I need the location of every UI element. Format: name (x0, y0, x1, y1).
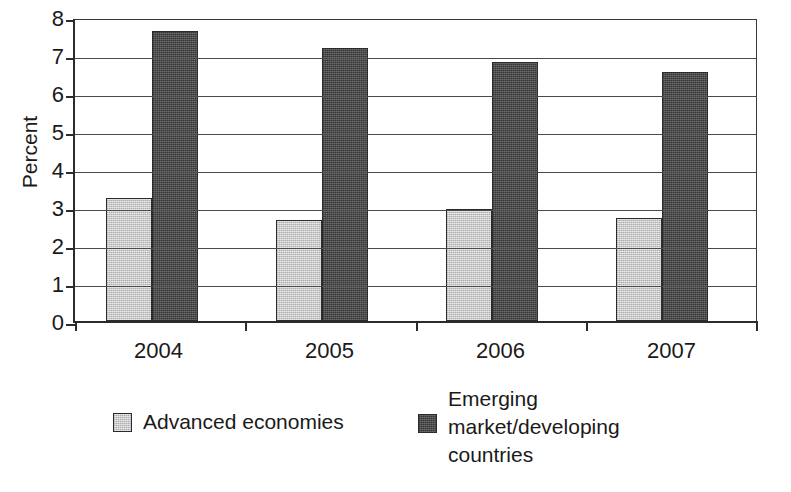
legend-label: Advanced economies (143, 408, 344, 436)
y-tickmark-6 (66, 96, 75, 98)
y-tick-label-0: 0 (36, 312, 64, 334)
x-tick-label-2006: 2006 (415, 336, 586, 370)
y-tick-label-7: 7 (36, 46, 64, 68)
plot-area (73, 19, 757, 323)
y-tickmark-4 (66, 172, 75, 174)
y-tickmark-0 (66, 324, 75, 326)
bar-group-2004 (75, 20, 245, 321)
chart-legend: Advanced economies Emerging market/devel… (73, 385, 773, 485)
y-tickmark-7 (66, 58, 75, 60)
y-tick-label-2: 2 (36, 236, 64, 258)
bar-group-2005 (245, 20, 415, 321)
y-tick-label-5: 5 (36, 122, 64, 144)
gridline-4 (75, 172, 756, 173)
x-tick-label-2005: 2005 (244, 336, 415, 370)
gridline-2 (75, 248, 756, 249)
bar-2007-series1 (662, 72, 708, 321)
bar-2005-series0 (276, 220, 322, 321)
x-tickmark-2007 (586, 321, 588, 331)
legend-entry-advanced-economies: Advanced economies (113, 408, 344, 436)
gridline-3 (75, 210, 756, 211)
legend-label: Emerging market/developing countries (448, 385, 620, 469)
gridline-1 (75, 286, 756, 287)
y-tick-label-8: 8 (36, 8, 64, 30)
bar-groups (75, 20, 756, 321)
y-axis-tick-labels: 012345678 (36, 19, 64, 323)
bar-chart-figure: Percent 012345678 2004200520062007 Advan… (0, 0, 791, 492)
y-tickmark-5 (66, 134, 75, 136)
bar-2004-series0 (106, 198, 152, 322)
y-tick-label-6: 6 (36, 84, 64, 106)
legend-entry-emerging-markets: Emerging market/developing countries (418, 385, 620, 469)
x-tick-label-2007: 2007 (586, 336, 757, 370)
x-tickmark-origin (75, 321, 77, 331)
gridline-7 (75, 58, 756, 59)
bar-group-2006 (416, 20, 586, 321)
y-tick-label-3: 3 (36, 198, 64, 220)
x-axis-tick-labels: 2004200520062007 (73, 336, 757, 370)
gridline-6 (75, 96, 756, 97)
bar-2006-series0 (446, 209, 492, 321)
y-tickmark-3 (66, 210, 75, 212)
dark-gray-swatch-icon (418, 414, 437, 433)
bar-2004-series1 (152, 31, 198, 321)
bar-2006-series1 (492, 62, 538, 321)
y-tickmark-8 (66, 20, 75, 22)
bar-2007-series0 (616, 218, 662, 321)
y-tick-label-4: 4 (36, 160, 64, 182)
x-tickmark-2005 (245, 321, 247, 331)
bar-group-2007 (586, 20, 756, 321)
x-tick-label-2004: 2004 (73, 336, 244, 370)
y-tickmark-1 (66, 286, 75, 288)
y-tick-label-1: 1 (36, 274, 64, 296)
bar-2005-series1 (322, 48, 368, 321)
y-tickmark-2 (66, 248, 75, 250)
x-tickmark-end (756, 321, 758, 331)
x-tickmark-2006 (416, 321, 418, 331)
gridline-5 (75, 134, 756, 135)
light-gray-swatch-icon (113, 413, 132, 432)
